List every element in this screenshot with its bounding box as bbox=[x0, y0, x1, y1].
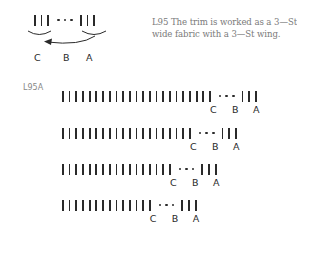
stitch-bar bbox=[116, 164, 118, 175]
stitch-bar bbox=[149, 128, 151, 139]
stitch-bar bbox=[162, 91, 164, 102]
stitch-bar bbox=[189, 91, 191, 102]
stitch-bar bbox=[82, 200, 84, 211]
ellipsis-dot bbox=[205, 132, 208, 135]
label-a: A bbox=[193, 213, 200, 224]
stitch-bar bbox=[80, 15, 82, 26]
stitch-bar bbox=[62, 200, 64, 211]
stitch-bar bbox=[162, 164, 164, 175]
label-c: C bbox=[190, 141, 197, 152]
ellipsis-dot bbox=[192, 168, 195, 171]
stitch-row bbox=[62, 199, 201, 211]
stitch-bar bbox=[102, 91, 104, 102]
stitch-bar bbox=[62, 164, 64, 175]
stitch-bar bbox=[176, 91, 178, 102]
label-b: B bbox=[232, 104, 239, 115]
stitch-row bbox=[62, 127, 242, 139]
stitch-bar bbox=[248, 91, 250, 102]
stitch-bar bbox=[109, 91, 111, 102]
stitch-bar bbox=[182, 128, 184, 139]
caption-line-2: wide fabric with a 3—St wing. bbox=[152, 28, 297, 40]
stitch-bar bbox=[122, 200, 124, 211]
label-a: A bbox=[213, 177, 220, 188]
stitch-bar bbox=[149, 91, 151, 102]
stitch-bar bbox=[75, 128, 77, 139]
stitch-bar bbox=[82, 91, 84, 102]
stitch-bar bbox=[89, 91, 91, 102]
stitch-bar bbox=[142, 164, 144, 175]
ellipsis-dot bbox=[179, 168, 182, 171]
stitch-bar bbox=[62, 91, 64, 102]
stitch-bar bbox=[69, 91, 71, 102]
ellipsis-dot bbox=[70, 19, 73, 22]
stitch-bar bbox=[195, 200, 197, 211]
stitch-bar bbox=[156, 164, 158, 175]
stitch-bar bbox=[169, 91, 171, 102]
stitch-bar bbox=[156, 128, 158, 139]
label-a: A bbox=[86, 52, 93, 63]
stitch-bar bbox=[109, 200, 111, 211]
stitch-bar bbox=[89, 164, 91, 175]
stitch-bar bbox=[122, 91, 124, 102]
stitch-bar bbox=[136, 128, 138, 139]
stitch-bar bbox=[201, 164, 203, 175]
stitch-bar bbox=[162, 128, 164, 139]
stitch-bar bbox=[228, 128, 230, 139]
ellipsis-dot bbox=[199, 132, 202, 135]
stitch-bar bbox=[116, 200, 118, 211]
stitch-bar bbox=[75, 164, 77, 175]
ellipsis-dot bbox=[159, 204, 162, 207]
stitch-bar bbox=[62, 128, 64, 139]
stitch-bar bbox=[93, 15, 95, 26]
stitch-bar bbox=[149, 164, 151, 175]
stitch-row bbox=[62, 90, 262, 102]
stitch-bar bbox=[116, 91, 118, 102]
ellipsis-dot bbox=[64, 19, 67, 22]
stitch-bar bbox=[142, 128, 144, 139]
stitch-bar bbox=[169, 128, 171, 139]
stitch-bar bbox=[129, 128, 131, 139]
stitch-bar bbox=[181, 200, 183, 211]
stitch-bar bbox=[255, 91, 257, 102]
stitch-bar bbox=[242, 91, 244, 102]
stitch-bar bbox=[188, 200, 190, 211]
stitch-row bbox=[62, 163, 222, 175]
stitch-bar bbox=[34, 15, 36, 26]
ellipsis-dot bbox=[57, 19, 60, 22]
stitch-bar bbox=[69, 200, 71, 211]
stitch-bar bbox=[202, 91, 204, 102]
stitch-bar bbox=[215, 164, 217, 175]
stitch-bar bbox=[102, 128, 104, 139]
stitch-bar bbox=[95, 164, 97, 175]
label-c: C bbox=[210, 104, 217, 115]
stitch-bar bbox=[109, 128, 111, 139]
caption: L95 The trim is worked as a 3—St wide fa… bbox=[152, 16, 297, 40]
ellipsis-dot bbox=[165, 204, 168, 207]
ellipsis-dot bbox=[232, 95, 235, 98]
caption-line-1: L95 The trim is worked as a 3—St bbox=[152, 16, 297, 28]
stitch-bar bbox=[136, 91, 138, 102]
stitch-bar bbox=[89, 128, 91, 139]
stitch-bar bbox=[95, 128, 97, 139]
stitch-bar bbox=[235, 128, 237, 139]
stitch-bar bbox=[129, 164, 131, 175]
stitch-bar bbox=[47, 15, 49, 26]
stitch-bar bbox=[109, 164, 111, 175]
stitch-bar bbox=[102, 164, 104, 175]
stitch-bar bbox=[89, 200, 91, 211]
stitch-bar bbox=[196, 91, 198, 102]
top-stitch-row bbox=[34, 14, 100, 26]
ellipsis-dot bbox=[219, 95, 222, 98]
label-c: C bbox=[150, 213, 157, 224]
stitch-bar bbox=[189, 128, 191, 139]
ellipsis-dot bbox=[212, 132, 215, 135]
stitch-bar bbox=[142, 200, 144, 211]
stitch-bar bbox=[169, 164, 171, 175]
stitch-bar bbox=[208, 164, 210, 175]
stitch-bar bbox=[122, 128, 124, 139]
stitch-bar bbox=[116, 128, 118, 139]
ellipsis-dot bbox=[185, 168, 188, 171]
stitch-bar bbox=[222, 128, 224, 139]
stitch-bar bbox=[82, 128, 84, 139]
stitch-bar bbox=[69, 164, 71, 175]
